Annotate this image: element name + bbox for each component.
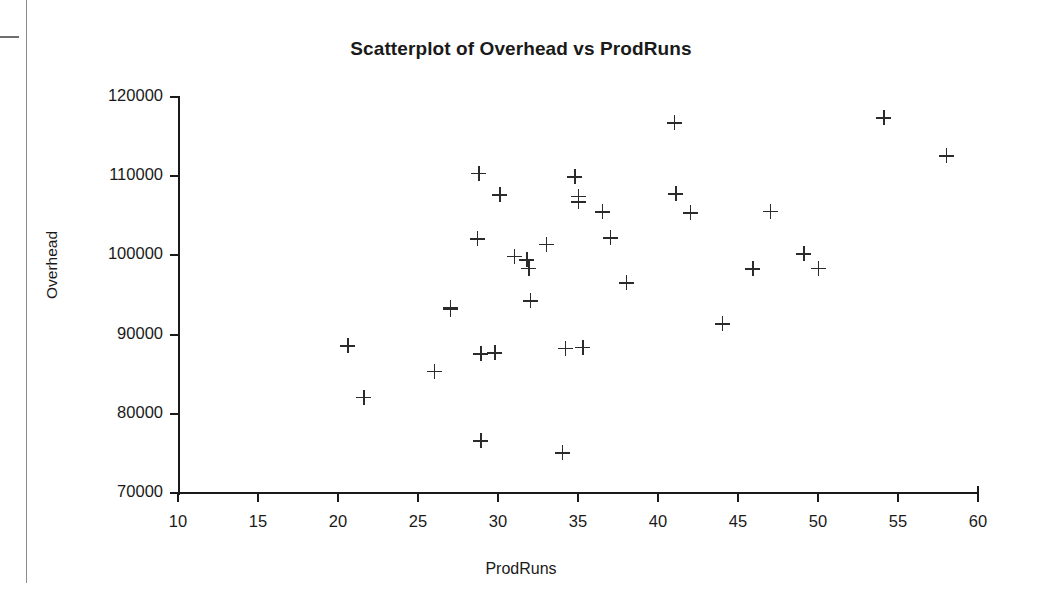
scatter-point xyxy=(521,261,536,276)
scatter-point xyxy=(683,205,698,220)
x-axis-tick xyxy=(897,493,899,502)
y-axis-tick-label: 110000 xyxy=(73,165,163,184)
plot-area xyxy=(178,97,978,493)
scatter-point xyxy=(876,110,891,125)
x-axis-tick xyxy=(337,493,339,502)
x-axis-tick xyxy=(977,493,979,502)
scatter-point xyxy=(427,364,442,379)
scatter-point xyxy=(443,300,458,315)
scatter-point xyxy=(667,115,682,130)
x-axis-tick xyxy=(417,493,419,502)
scatter-point xyxy=(443,302,458,317)
scatter-point xyxy=(619,275,634,290)
x-axis-tick xyxy=(817,493,819,502)
scatter-point xyxy=(763,204,778,219)
x-axis-tick-label: 10 xyxy=(148,512,208,531)
scatter-point xyxy=(340,338,355,353)
scatter-point xyxy=(796,246,811,261)
scatter-point xyxy=(470,231,485,246)
scatter-point xyxy=(555,445,570,460)
scatter-point xyxy=(745,261,760,276)
x-axis-tick xyxy=(577,493,579,502)
x-axis-tick-label: 25 xyxy=(388,512,448,531)
y-axis-tick-label: 80000 xyxy=(73,403,163,422)
scatter-point xyxy=(471,166,486,181)
scatter-point xyxy=(603,230,618,245)
x-axis-tick xyxy=(737,493,739,502)
x-axis-tick xyxy=(257,493,259,502)
y-axis-tick-label: 90000 xyxy=(73,324,163,343)
scatter-point xyxy=(595,204,610,219)
scatter-point xyxy=(571,194,586,209)
x-axis-tick-label: 30 xyxy=(468,512,528,531)
x-axis-tick-label: 55 xyxy=(868,512,928,531)
x-axis-tick xyxy=(657,493,659,502)
x-axis-tick-label: 15 xyxy=(228,512,288,531)
scatter-point xyxy=(492,187,507,202)
scatter-point xyxy=(811,261,826,276)
x-axis-tick xyxy=(177,493,179,502)
scatter-point xyxy=(473,346,488,361)
y-axis-tick-label: 120000 xyxy=(73,86,163,105)
scatter-point xyxy=(571,189,586,204)
scatter-point xyxy=(715,316,730,331)
x-axis-tick-label: 20 xyxy=(308,512,368,531)
scatter-point xyxy=(487,345,502,360)
scatter-point xyxy=(473,433,488,448)
x-axis-tick xyxy=(497,493,499,502)
scatter-point xyxy=(575,340,590,355)
x-axis-tick-label: 45 xyxy=(708,512,768,531)
scatter-point xyxy=(356,390,371,405)
scatter-point xyxy=(519,252,534,267)
scatter-point xyxy=(507,249,522,264)
x-axis-tick-label: 40 xyxy=(628,512,688,531)
scatterplot-figure: Scatterplot of Overhead vs ProdRuns 1200… xyxy=(0,0,1042,611)
scatter-point xyxy=(558,341,573,356)
scatter-point xyxy=(939,148,954,163)
scatter-point xyxy=(668,186,683,201)
x-axis-tick-label: 50 xyxy=(788,512,848,531)
x-axis-tick-label: 60 xyxy=(948,512,1008,531)
scatter-point xyxy=(523,293,538,308)
scatter-point xyxy=(567,169,582,184)
y-axis-tick-label: 100000 xyxy=(73,244,163,263)
x-axis-label: ProdRuns xyxy=(0,560,1042,578)
scatter-point xyxy=(539,237,554,252)
y-axis-tick-label: 70000 xyxy=(73,482,163,501)
y-axis-label: Overhead xyxy=(43,205,61,325)
x-axis-tick-label: 35 xyxy=(548,512,608,531)
chart-title: Scatterplot of Overhead vs ProdRuns xyxy=(0,38,1042,60)
